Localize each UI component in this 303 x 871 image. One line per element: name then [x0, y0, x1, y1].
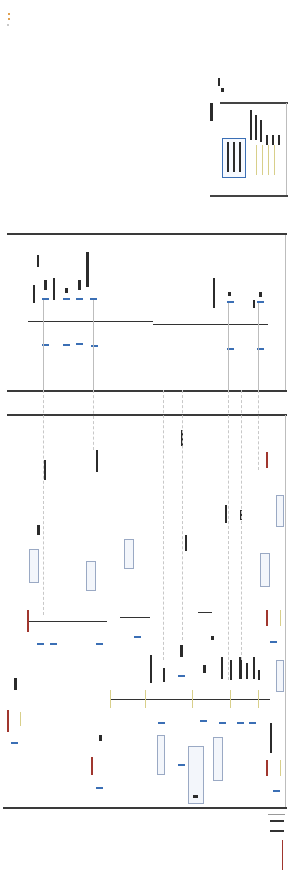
node-label	[228, 292, 231, 296]
info-box	[276, 660, 284, 692]
legend-rule	[268, 814, 285, 815]
section-frame-right	[285, 415, 286, 808]
bus-line	[28, 321, 153, 322]
inset-label	[218, 78, 220, 86]
info-box	[29, 549, 39, 583]
tie-line	[182, 390, 183, 640]
bus-line	[153, 324, 213, 325]
node-label	[225, 505, 227, 523]
node-label	[203, 665, 206, 673]
node-label	[78, 280, 81, 290]
feeder-line	[93, 300, 94, 390]
node-label	[53, 278, 55, 300]
bus-line	[110, 699, 270, 700]
inset-table-col	[239, 142, 241, 172]
node-label	[239, 657, 242, 679]
node-label	[14, 678, 17, 690]
tie-line	[93, 390, 94, 450]
bay-marker	[50, 643, 57, 645]
connector-icon	[280, 760, 281, 776]
bay-marker	[270, 641, 277, 643]
node-label	[180, 645, 183, 657]
node-label	[185, 535, 187, 551]
bay-marker	[96, 787, 103, 789]
node-label	[33, 285, 35, 303]
generator-icon	[27, 610, 29, 632]
legend-label	[270, 830, 284, 832]
generator-icon	[266, 610, 268, 626]
bay-marker	[76, 298, 83, 300]
bay-marker	[63, 344, 70, 346]
bay-marker	[76, 343, 83, 345]
connector-icon	[110, 690, 111, 708]
node-label	[253, 300, 255, 308]
bay-marker	[134, 636, 141, 638]
tie-line	[163, 390, 164, 660]
connector-icon	[230, 690, 231, 708]
section-divider	[7, 390, 287, 392]
header-mark	[8, 18, 10, 20]
bay-marker	[11, 742, 18, 744]
node-label	[96, 450, 98, 472]
inset-connector	[256, 145, 257, 175]
bus-line	[120, 617, 150, 618]
generator-icon	[91, 757, 93, 775]
tie-line	[241, 390, 242, 660]
node-label	[44, 460, 46, 480]
node-label	[37, 255, 39, 267]
bay-marker	[96, 643, 103, 645]
legend-symbol	[282, 840, 283, 870]
inset-connector	[268, 145, 269, 175]
inset-label	[260, 120, 262, 142]
bay-marker	[178, 675, 185, 677]
node-label	[99, 735, 102, 741]
legend-label	[270, 820, 284, 822]
node-label	[221, 657, 223, 679]
section-divider	[7, 233, 287, 235]
bay-marker	[158, 722, 165, 724]
bay-marker	[178, 764, 185, 766]
node-label	[37, 525, 40, 535]
section-divider	[7, 414, 287, 416]
inset-frame-right	[286, 103, 287, 195]
bay-marker	[37, 643, 44, 645]
info-box	[86, 561, 96, 591]
inset-label	[255, 115, 257, 140]
node-label	[193, 795, 198, 798]
inset-connector	[262, 145, 263, 175]
feeder-line	[228, 303, 229, 390]
inset-label	[278, 135, 280, 145]
node-label	[258, 670, 260, 680]
bus-line	[27, 621, 107, 622]
inset-table-col	[233, 142, 235, 172]
generator-icon	[266, 760, 268, 776]
node-label	[86, 252, 89, 287]
connector-icon	[145, 690, 146, 708]
node-label	[65, 288, 68, 293]
bay-marker	[63, 298, 70, 300]
header-mark	[8, 13, 10, 15]
node-label	[230, 660, 232, 680]
bay-marker	[200, 720, 207, 722]
header-mark	[7, 24, 9, 26]
feeder-line	[43, 300, 44, 390]
tie-line	[43, 390, 44, 615]
node-label	[211, 636, 214, 640]
feeder-line	[258, 303, 259, 390]
connector-icon	[280, 610, 281, 626]
inset-label	[221, 88, 224, 92]
inset-frame-bottom	[210, 195, 288, 197]
node-label	[150, 655, 152, 683]
connector-icon	[192, 690, 193, 708]
connector-icon	[258, 690, 259, 708]
node-label	[213, 278, 215, 308]
generator-icon	[7, 710, 9, 732]
node-label	[246, 663, 248, 679]
tie-line	[258, 390, 259, 470]
inset-label	[266, 135, 268, 145]
generator-icon	[266, 452, 268, 468]
inset-label	[210, 103, 213, 121]
node-label	[163, 668, 165, 682]
bus-line	[213, 324, 268, 325]
info-box	[213, 737, 223, 781]
